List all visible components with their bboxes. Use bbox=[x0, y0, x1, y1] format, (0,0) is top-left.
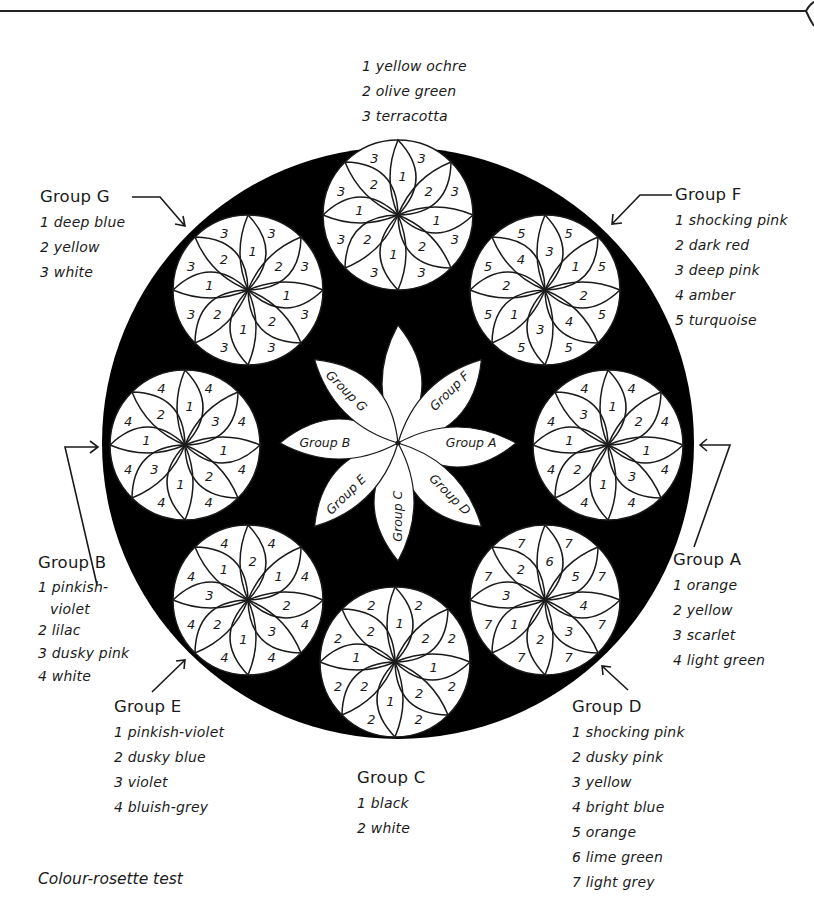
rosette-outer-number: 2 bbox=[448, 679, 456, 694]
rosette-outer-number: 3 bbox=[301, 307, 309, 322]
legend-item: 5 turquoise bbox=[675, 308, 788, 333]
rosette-outer-number: 7 bbox=[517, 650, 526, 665]
legend-item: 6 lime green bbox=[572, 845, 685, 870]
rosette-outer-number: 3 bbox=[337, 184, 345, 199]
legend-item: 1 pinkish-violet bbox=[114, 720, 224, 745]
arrow-group-f-icon bbox=[612, 195, 672, 224]
top-key-item: 2 olive green bbox=[362, 79, 467, 104]
group-d-legend: Group D 1 shocking pink 2 dusky pink 3 y… bbox=[572, 694, 685, 895]
rosette-inner-number: 2 bbox=[363, 232, 371, 247]
rosette-outer-number: 7 bbox=[564, 650, 573, 665]
rosette-B: 1434142414341424 bbox=[110, 370, 260, 520]
rosette-outer-number: 3 bbox=[451, 232, 459, 247]
rosette-outer-number: 4 bbox=[627, 495, 635, 510]
rosette-outer-number: 3 bbox=[220, 226, 228, 241]
rosette-outer-number: 4 bbox=[580, 495, 588, 510]
rosette-inner-number: 3 bbox=[502, 588, 510, 603]
rosette-inner-number: 2 bbox=[517, 562, 525, 577]
rosette-outer-number: 7 bbox=[484, 617, 493, 632]
rosette-outer-number: 4 bbox=[267, 536, 275, 551]
rosette-inner-number: 1 bbox=[283, 288, 291, 303]
rosette-outer-number: 4 bbox=[301, 617, 309, 632]
rosette-inner-number: 1 bbox=[142, 433, 150, 448]
rosette-inner-number: 1 bbox=[430, 660, 438, 675]
rosette-outer-number: 4 bbox=[301, 569, 309, 584]
rosette-inner-number: 1 bbox=[565, 433, 573, 448]
rosette-inner-number: 1 bbox=[176, 477, 184, 492]
rosette-outer-number: 4 bbox=[238, 462, 246, 477]
center-petal-label: Group B bbox=[299, 435, 350, 450]
rosette-outer-number: 7 bbox=[517, 536, 526, 551]
rosette-outer-number: 4 bbox=[238, 414, 246, 429]
rosette-inner-number: 2 bbox=[283, 598, 291, 613]
rosette-inner-number: 2 bbox=[205, 469, 213, 484]
rosette-outer-number: 4 bbox=[187, 617, 195, 632]
rosette-outer-number: 4 bbox=[580, 381, 588, 396]
rosette-inner-number: 4 bbox=[565, 314, 573, 329]
rosette-inner-number: 3 bbox=[268, 624, 276, 639]
rosette-inner-number: 1 bbox=[275, 569, 283, 584]
rosette-outer-number: 4 bbox=[124, 414, 132, 429]
rosette-outer-number: 4 bbox=[547, 462, 555, 477]
rosette-inner-number: 2 bbox=[213, 617, 221, 632]
center-petal-label: Group C bbox=[390, 490, 405, 541]
rosette-outer-number: 7 bbox=[598, 569, 607, 584]
legend-item: 2 dusky pink bbox=[572, 745, 685, 770]
rosette-outer-number: 3 bbox=[301, 259, 309, 274]
legend-item: 1 orange bbox=[673, 573, 765, 598]
rosette-inner-number: 2 bbox=[573, 462, 581, 477]
rosette-outer-number: 7 bbox=[564, 536, 573, 551]
rosette-inner-number: 4 bbox=[517, 252, 525, 267]
center-petal-label: Group A bbox=[446, 435, 497, 450]
rosette-inner-number: 2 bbox=[370, 177, 378, 192]
rosette-inner-number: 1 bbox=[599, 477, 607, 492]
group-f-title: Group F bbox=[675, 182, 788, 208]
rosette-inner-number: 3 bbox=[565, 624, 573, 639]
rosette-inner-number: 1 bbox=[386, 694, 394, 709]
rosette-inner-number: 1 bbox=[205, 278, 213, 293]
arrow-group-g-icon bbox=[132, 197, 185, 226]
legend-item: 3 violet bbox=[114, 770, 224, 795]
rosette-inner-number: 2 bbox=[157, 407, 165, 422]
legend-item: 2 white bbox=[357, 816, 425, 841]
legend-item: 2 lilac bbox=[38, 619, 129, 642]
legend-item: 7 light grey bbox=[572, 870, 685, 895]
rosette-inner-number: 3 bbox=[628, 469, 636, 484]
legend-item: 3 yellow bbox=[572, 770, 685, 795]
legend-item: 1 pinkish- bbox=[38, 576, 129, 599]
legend-item: 3 white bbox=[40, 260, 125, 285]
legend-item: 2 dusky blue bbox=[114, 745, 224, 770]
rosette-inner-number: 2 bbox=[360, 679, 368, 694]
arrow-group-a-icon bbox=[694, 439, 730, 547]
rosette-outer-number: 3 bbox=[267, 340, 275, 355]
rosette-outer-number: 4 bbox=[267, 650, 275, 665]
group-a-legend: Group A 1 orange 2 yellow 3 scarlet 4 li… bbox=[673, 547, 765, 673]
rosette-E: 2414243414243414 bbox=[173, 525, 323, 675]
rosette-outer-number: 3 bbox=[451, 184, 459, 199]
rosette-inner-number: 1 bbox=[510, 617, 518, 632]
rosette-inner-number: 6 bbox=[546, 554, 554, 569]
rosette-inner-number: 2 bbox=[268, 314, 276, 329]
rosette-outer-number: 2 bbox=[414, 598, 422, 613]
rosette-inner-number: 2 bbox=[367, 624, 375, 639]
rosette-A: 1424143414241434 bbox=[533, 370, 683, 520]
rosette-outer-number: 3 bbox=[220, 340, 228, 355]
rosette-inner-number: 1 bbox=[433, 213, 441, 228]
rosette-inner-number: 3 bbox=[536, 322, 544, 337]
group-c-legend: Group C 1 black 2 white bbox=[357, 765, 425, 841]
rosette-outer-number: 4 bbox=[204, 495, 212, 510]
legend-item: 1 shocking pink bbox=[572, 720, 685, 745]
rosette-inner-number: 1 bbox=[220, 443, 228, 458]
rosette-inner-number: 5 bbox=[572, 569, 580, 584]
rosette-inner-number: 2 bbox=[422, 631, 430, 646]
legend-item: 2 yellow bbox=[673, 598, 765, 623]
rosette-inner-number: 2 bbox=[415, 686, 423, 701]
rosette-outer-number: 3 bbox=[370, 151, 378, 166]
rosette-inner-number: 3 bbox=[546, 244, 554, 259]
group-b-title: Group B bbox=[38, 550, 129, 576]
legend-item: 3 dusky pink bbox=[38, 642, 129, 665]
group-a-title: Group A bbox=[673, 547, 765, 573]
rosette-top: 1323132313231323 bbox=[323, 140, 473, 290]
rosette-outer-number: 5 bbox=[564, 226, 572, 241]
rosette-outer-number: 5 bbox=[484, 307, 492, 322]
